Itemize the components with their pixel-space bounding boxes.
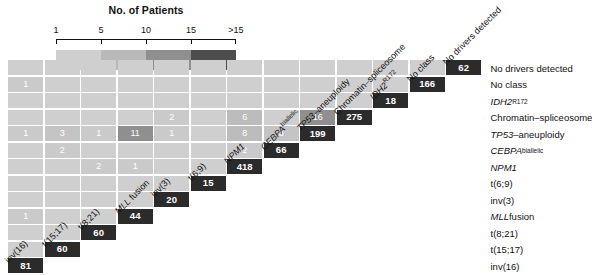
row-label: No class: [491, 77, 527, 94]
legend-tick-labels: 151015>15: [56, 25, 236, 38]
row-label: Chromatin–spliceosome: [491, 110, 592, 127]
matrix-cell[interactable]: [264, 77, 299, 92]
row-label: t(6;9): [491, 176, 513, 193]
matrix-cell[interactable]: [45, 192, 80, 207]
matrix-cell[interactable]: [118, 60, 153, 75]
matrix-cell[interactable]: [154, 143, 189, 158]
legend-axis: [56, 39, 236, 45]
matrix-cell[interactable]: [227, 77, 262, 92]
matrix-cell[interactable]: [81, 176, 116, 191]
matrix-cell[interactable]: [154, 60, 189, 75]
legend-tick: [235, 39, 236, 44]
matrix-cell[interactable]: [191, 60, 226, 75]
legend-tick: [56, 39, 57, 44]
matrix-cell[interactable]: [8, 159, 43, 174]
legend-tick: [191, 39, 192, 44]
matrix-cell[interactable]: [8, 60, 43, 75]
legend-tick-label: >15: [228, 25, 243, 35]
row-label: t(8;21): [491, 225, 518, 242]
matrix-cell[interactable]: [227, 93, 262, 108]
matrix-cell[interactable]: [81, 60, 116, 75]
matrix-cell[interactable]: 1: [8, 126, 43, 141]
matrix-cell[interactable]: [154, 77, 189, 92]
legend-tick-label: 1: [53, 25, 58, 35]
matrix-cell[interactable]: 2: [45, 143, 80, 158]
row-label: inv(16): [491, 258, 520, 275]
matrix-cell[interactable]: [8, 225, 43, 240]
matrix-cell[interactable]: [8, 93, 43, 108]
matrix-cell[interactable]: 1: [8, 77, 43, 92]
matrix-cell[interactable]: [8, 143, 43, 158]
matrix-cell[interactable]: [8, 176, 43, 191]
matrix-cell[interactable]: [45, 159, 80, 174]
matrix-cell[interactable]: [191, 126, 226, 141]
matrix-cell[interactable]: [81, 77, 116, 92]
matrix-cell[interactable]: [81, 192, 116, 207]
matrix-cell[interactable]: 8: [227, 126, 262, 141]
matrix-cell[interactable]: [45, 60, 80, 75]
legend-title: No. of Patients: [56, 4, 236, 16]
matrix-cell[interactable]: 2: [154, 110, 189, 125]
matrix-cell[interactable]: [191, 77, 226, 92]
matrix-cell[interactable]: [118, 77, 153, 92]
matrix: 62No drivers detectedNo drivers detected…: [8, 60, 483, 275]
matrix-cell[interactable]: [81, 110, 116, 125]
matrix-cell[interactable]: [300, 60, 335, 75]
matrix-cell[interactable]: [337, 60, 372, 75]
row-label: t(15;17): [491, 242, 524, 259]
matrix-cell[interactable]: 2: [81, 159, 116, 174]
matrix-cell[interactable]: [8, 192, 43, 207]
matrix-cell[interactable]: 1: [81, 126, 116, 141]
row-label: MLL fusion: [491, 209, 535, 226]
row-label: NPM1: [491, 159, 517, 176]
legend-tick: [146, 39, 147, 44]
matrix-cell[interactable]: [154, 93, 189, 108]
matrix-cell[interactable]: [118, 93, 153, 108]
matrix-cell[interactable]: [81, 143, 116, 158]
matrix-cell[interactable]: 1: [118, 159, 153, 174]
matrix-cell[interactable]: 1: [8, 209, 43, 224]
matrix-cell[interactable]: [154, 159, 189, 174]
row-label: CEBPAbiallelic: [491, 143, 544, 160]
matrix-cell[interactable]: [81, 93, 116, 108]
matrix-cell[interactable]: [264, 93, 299, 108]
matrix-cell[interactable]: [45, 77, 80, 92]
matrix-cell[interactable]: 6: [227, 110, 262, 125]
matrix-cell[interactable]: [118, 143, 153, 158]
row-label: TP53–aneuploidy: [491, 126, 565, 143]
matrix-cell[interactable]: [191, 143, 226, 158]
legend-tick-label: 10: [141, 25, 151, 35]
legend-tick: [101, 39, 102, 44]
legend-tick-label: 5: [98, 25, 103, 35]
row-label: IDH2R172: [491, 93, 528, 110]
matrix-cell[interactable]: [8, 110, 43, 125]
matrix-cell[interactable]: 1: [154, 126, 189, 141]
column-header: No drivers detected: [441, 5, 503, 67]
matrix-cell[interactable]: [45, 176, 80, 191]
matrix-cell[interactable]: [227, 60, 262, 75]
matrix-cell[interactable]: 3: [45, 126, 80, 141]
matrix-cell[interactable]: [45, 110, 80, 125]
matrix-cell[interactable]: [191, 110, 226, 125]
matrix-grid: 62No drivers detectedNo drivers detected…: [8, 60, 483, 275]
legend-tick-label: 15: [186, 25, 196, 35]
matrix-cell[interactable]: [264, 60, 299, 75]
row-label: inv(3): [491, 192, 515, 209]
matrix-cell[interactable]: 11: [118, 126, 153, 141]
matrix-cell[interactable]: [118, 110, 153, 125]
matrix-cell[interactable]: [191, 93, 226, 108]
matrix-cell[interactable]: [45, 93, 80, 108]
row-label: No drivers detected: [491, 60, 573, 77]
